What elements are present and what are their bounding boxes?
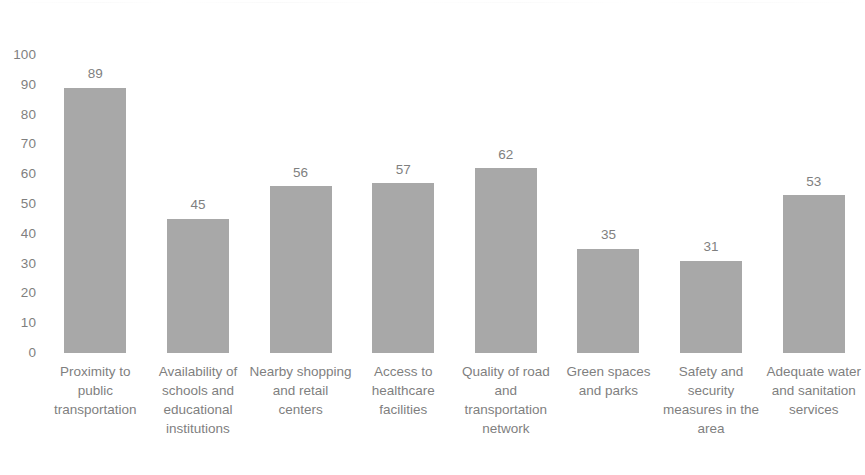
bar[interactable] <box>270 186 332 353</box>
x-axis-tick-label-text: Proximity to public transportation <box>44 362 147 419</box>
bar-value-label: 56 <box>293 166 308 180</box>
x-axis-tick-label: Quality of road and transportation netwo… <box>455 362 558 438</box>
bar[interactable] <box>64 88 126 353</box>
x-axis-tick-label: Safety and security measures in the area <box>660 362 763 438</box>
y-axis-tick-label: 50 <box>21 197 36 211</box>
plot-area: 8945565762353153 <box>44 0 865 353</box>
bar-value-label: 45 <box>190 198 205 212</box>
y-axis-tick-label: 90 <box>21 78 36 92</box>
x-axis-tick-label: Nearby shopping and retail centers <box>249 362 352 419</box>
x-axis-tick-label-text: Availability of schools and educational … <box>147 362 250 438</box>
bar-value-label: 57 <box>396 163 411 177</box>
y-axis-tick-label: 100 <box>13 48 36 62</box>
y-axis: 1009080706050403020100 <box>0 0 44 475</box>
y-axis-tick-label: 10 <box>21 316 36 330</box>
x-axis-tick-label: Access to healthcare facilities <box>352 362 455 419</box>
bar-value-label: 53 <box>806 175 821 189</box>
bar-group: 53 <box>762 0 865 353</box>
bar-value-label: 62 <box>498 148 513 162</box>
bar-group: 89 <box>44 0 147 353</box>
x-axis-tick-label-text: Access to healthcare facilities <box>352 362 455 419</box>
bar-group: 56 <box>249 0 352 353</box>
bar[interactable] <box>372 183 434 353</box>
bar-group: 35 <box>557 0 660 353</box>
y-axis-tick-label: 70 <box>21 138 36 152</box>
bar[interactable] <box>680 261 742 353</box>
bar-group: 57 <box>352 0 455 353</box>
x-axis-tick-label-text: Quality of road and transportation netwo… <box>455 362 558 438</box>
x-axis-tick-label-text: Green spaces and parks <box>557 362 660 400</box>
bar-value-label: 89 <box>88 67 103 81</box>
bar-value-label: 31 <box>704 240 719 254</box>
bar-group: 62 <box>455 0 558 353</box>
bar-group: 45 <box>147 0 250 353</box>
x-axis-tick-label: Availability of schools and educational … <box>147 362 250 438</box>
x-axis-tick-label: Green spaces and parks <box>557 362 660 400</box>
y-axis-tick-label: 40 <box>21 227 36 241</box>
bar[interactable] <box>475 168 537 353</box>
bar-group: 31 <box>660 0 763 353</box>
x-axis-category-labels: Proximity to public transportationAvaila… <box>44 362 865 475</box>
y-axis-tick-label: 80 <box>21 108 36 122</box>
x-axis-tick-label: Proximity to public transportation <box>44 362 147 419</box>
bar[interactable] <box>783 195 845 353</box>
y-axis-tick-label: 0 <box>28 346 36 360</box>
x-axis-tick-label: Adequate water and sanitation services <box>762 362 865 419</box>
bar[interactable] <box>167 219 229 353</box>
bar-value-label: 35 <box>601 228 616 242</box>
x-axis-tick-label-text: Nearby shopping and retail centers <box>249 362 352 419</box>
y-axis-tick-label: 20 <box>21 287 36 301</box>
bar[interactable] <box>577 249 639 353</box>
bar-chart: 1009080706050403020100 8945565762353153 … <box>0 0 865 475</box>
x-axis-tick-label-text: Adequate water and sanitation services <box>762 362 865 419</box>
y-axis-tick-label: 60 <box>21 167 36 181</box>
y-axis-tick-label: 30 <box>21 257 36 271</box>
x-axis-tick-label-text: Safety and security measures in the area <box>660 362 763 438</box>
